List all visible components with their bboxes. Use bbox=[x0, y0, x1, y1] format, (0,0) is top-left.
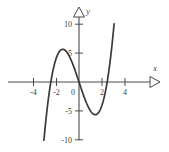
x-axis-arrow-icon bbox=[150, 77, 160, 88]
x-axis-label: x bbox=[152, 64, 157, 73]
y-tick-label-minus10: -10 bbox=[61, 136, 72, 145]
y-tick-label-10: 10 bbox=[64, 20, 72, 29]
x-tick-label-minus4: -4 bbox=[30, 88, 37, 97]
chart-figure: -4 -2 0 2 4 10 5 -5 -10 y x bbox=[0, 0, 169, 152]
cubic-function-plot: -4 -2 0 2 4 10 5 -5 -10 y x bbox=[0, 0, 169, 152]
x-tick-label-4: 4 bbox=[123, 88, 127, 97]
x-tick-label-minus2: -2 bbox=[53, 88, 60, 97]
x-tick-label-zero: 0 bbox=[71, 88, 75, 97]
y-tick-label-minus5: -5 bbox=[65, 107, 72, 116]
y-axis-arrow-icon bbox=[74, 7, 85, 17]
x-tick-label-2: 2 bbox=[100, 88, 104, 97]
y-axis-label: y bbox=[85, 7, 90, 16]
